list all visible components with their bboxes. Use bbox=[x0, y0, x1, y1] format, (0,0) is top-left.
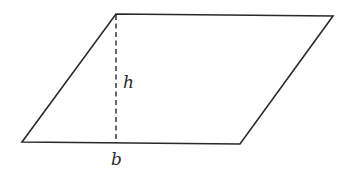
height-label: h bbox=[123, 72, 134, 92]
parallelogram-shape bbox=[22, 14, 333, 144]
parallelogram-diagram: h b bbox=[0, 0, 339, 170]
base-label: b bbox=[111, 149, 122, 169]
